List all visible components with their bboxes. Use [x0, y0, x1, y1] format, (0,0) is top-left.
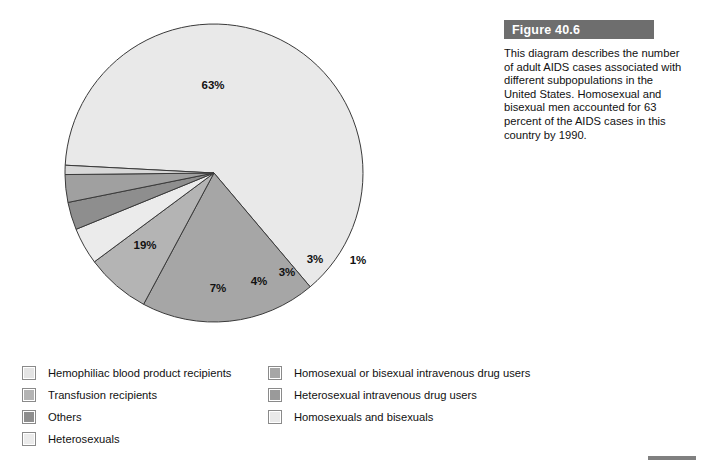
legend-swatch-hetero-iv: [268, 388, 282, 402]
figure-number-label: Figure 40.6: [512, 23, 580, 37]
legend-item: Homosexual or bisexual intravenous drug …: [268, 362, 568, 384]
pie-slice-label: 3%: [307, 253, 324, 265]
pie-slice-label: 1%: [350, 254, 367, 266]
legend-item: Others: [22, 406, 272, 428]
legend-item: Heterosexuals: [22, 428, 272, 450]
legend-swatch-homo-bi-iv: [268, 366, 282, 380]
pie-chart-svg: 63%19%7%4%3%3%1%: [0, 0, 470, 350]
legend-item: Transfusion recipients: [22, 384, 272, 406]
figure-number-banner: Figure 40.6: [504, 20, 654, 39]
legend-item-label: Hemophiliac blood product recipients: [48, 367, 231, 379]
figure-caption-block: Figure 40.6 This diagram describes the n…: [504, 20, 684, 142]
figure-caption-text: This diagram describes the number of adu…: [504, 47, 686, 142]
legend-item-label: Heterosexual intravenous drug users: [294, 389, 477, 401]
legend-item-label: Homosexuals and bisexuals: [294, 411, 433, 423]
legend-item: Heterosexual intravenous drug users: [268, 384, 568, 406]
legend-item-label: Heterosexuals: [48, 433, 120, 445]
legend-item-label: Homosexual or bisexual intravenous drug …: [294, 367, 530, 379]
pie-slice-label: 63%: [201, 79, 224, 91]
legend-item-label: Others: [48, 411, 82, 423]
legend-swatch-hemophiliac: [22, 366, 36, 380]
pie-slice-label: 7%: [210, 282, 227, 294]
pie-chart-figure: 63%19%7%4%3%3%1%: [0, 0, 470, 350]
pie-slice-label: 3%: [279, 266, 296, 278]
legend-swatch-heterosexuals: [22, 432, 36, 446]
legend-column-right: Homosexual or bisexual intravenous drug …: [268, 362, 568, 428]
legend-swatch-others: [22, 410, 36, 424]
legend-item: Homosexuals and bisexuals: [268, 406, 568, 428]
legend-item: Hemophiliac blood product recipients: [22, 362, 272, 384]
legend-swatch-transfusion: [22, 388, 36, 402]
chart-legend: Hemophiliac blood product recipientsTran…: [0, 362, 701, 452]
legend-column-left: Hemophiliac blood product recipientsTran…: [22, 362, 272, 450]
pie-slice-label: 19%: [133, 239, 156, 251]
pie-slice-label: 4%: [251, 275, 268, 287]
legend-swatch-homo-bi: [268, 410, 282, 424]
legend-item-label: Transfusion recipients: [48, 389, 157, 401]
pie-slice-group: [65, 24, 363, 322]
page-bottom-rule: [648, 456, 696, 460]
